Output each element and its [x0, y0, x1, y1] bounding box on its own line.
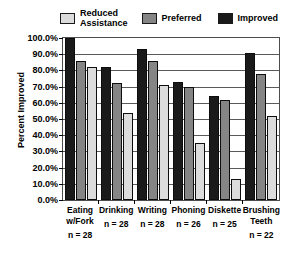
legend-swatch-icon-preferred — [142, 13, 157, 24]
bar-preferred — [184, 87, 194, 200]
x-axis-category-name: Brushing Teeth — [243, 205, 280, 227]
x-axis-category: Disketten = 25 — [207, 205, 243, 241]
bar-improved — [137, 49, 147, 200]
x-axis-category-count: n = 25 — [207, 219, 243, 230]
bar-group — [243, 38, 279, 200]
y-axis-tick-mark — [59, 200, 63, 201]
legend-swatch-icon-reduced-assistance — [60, 13, 75, 24]
bar-group — [135, 38, 171, 200]
legend-label-reduced-assistance: Reduced Assistance — [80, 8, 128, 28]
x-axis-tick-mark — [134, 200, 135, 204]
x-axis-category-count: n = 28 — [134, 219, 170, 230]
x-axis-category-name: Phoning — [170, 205, 206, 216]
x-axis-labels: Eating w/Forkn = 28Drinkingn = 28Writing… — [62, 205, 280, 241]
x-axis-category-count: n = 28 — [98, 219, 134, 230]
x-axis-category-name: Writing — [134, 205, 170, 216]
y-axis-tick-label: 100.0% — [27, 34, 63, 43]
bar-group — [63, 38, 99, 200]
x-axis-tick-mark — [206, 200, 207, 204]
bar-group — [207, 38, 243, 200]
x-axis-tick-mark — [242, 200, 243, 204]
bar-group — [99, 38, 135, 200]
x-axis-category-name: Eating w/Fork — [62, 205, 98, 227]
bar-reduced-assistance — [231, 179, 241, 200]
bar-improved — [65, 38, 75, 200]
x-axis-category-count: n = 26 — [170, 219, 206, 230]
x-axis-category: Eating w/Forkn = 28 — [62, 205, 98, 241]
bar-improved — [245, 53, 255, 200]
bar-preferred — [256, 74, 266, 200]
bar-reduced-assistance — [267, 116, 277, 200]
x-axis-category-count: n = 28 — [62, 230, 98, 241]
bar-preferred — [220, 100, 230, 200]
x-axis-category-name: Drinking — [98, 205, 134, 216]
bar-reduced-assistance — [123, 113, 133, 200]
y-axis-title: Percent Improved — [16, 40, 26, 180]
bar-reduced-assistance — [159, 85, 169, 200]
legend-item-improved: Improved — [218, 13, 279, 24]
x-axis-category-count: n = 22 — [243, 230, 280, 241]
plot-area: 100.0%90.0%80.0%70.0%60.0%50.0%40.0%30.0… — [62, 37, 280, 201]
x-axis-category: Writingn = 28 — [134, 205, 170, 241]
x-axis-category-name: Diskette — [207, 205, 243, 216]
x-axis-category: Drinkingn = 28 — [98, 205, 134, 241]
bar-improved — [101, 67, 111, 200]
legend-item-preferred: Preferred — [142, 13, 202, 24]
x-axis-tick-mark — [98, 200, 99, 204]
legend-item-reduced-assistance: Reduced Assistance — [60, 8, 128, 28]
x-axis-category: Phoningn = 26 — [170, 205, 206, 241]
x-axis-tick-mark — [170, 200, 171, 204]
x-axis-category: Brushing Teethn = 22 — [243, 205, 280, 241]
legend-label-improved: Improved — [238, 13, 279, 23]
bar-preferred — [112, 83, 122, 200]
bar-improved — [173, 82, 183, 200]
legend-swatch-icon-improved — [218, 13, 233, 24]
bar-preferred — [148, 61, 158, 200]
bar-reduced-assistance — [87, 67, 97, 200]
bar-reduced-assistance — [195, 143, 205, 200]
bar-preferred — [76, 61, 86, 200]
bar-groups — [63, 38, 279, 200]
bar-group — [171, 38, 207, 200]
bar-improved — [209, 96, 219, 200]
legend-label-preferred: Preferred — [162, 13, 202, 23]
chart-legend: Reduced Assistance Preferred Improved — [56, 4, 292, 32]
bar-chart: Reduced Assistance Preferred Improved Pe… — [0, 0, 295, 253]
